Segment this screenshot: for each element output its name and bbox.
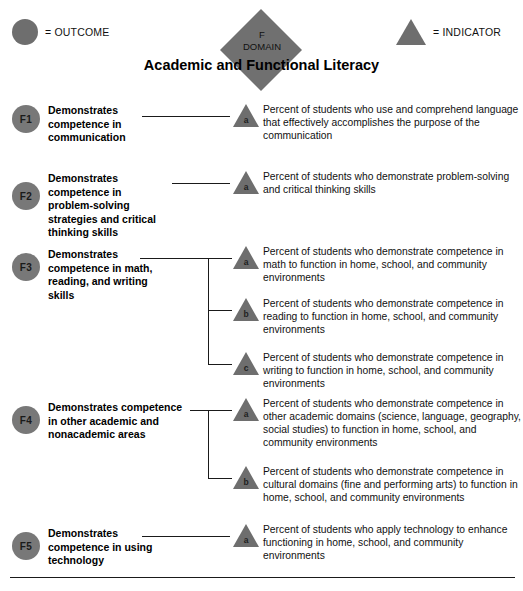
- indicator-text: Percent of students who use and comprehe…: [263, 103, 521, 142]
- connector-line-f1: [142, 116, 230, 117]
- connector-line-f3-stem: [140, 258, 209, 259]
- outcome-badge-f5: F5: [12, 532, 40, 560]
- indicator-letter: a: [233, 409, 259, 419]
- connector-line-f4-a: [208, 410, 232, 411]
- legend-indicator: = INDICATOR: [396, 19, 501, 45]
- indicator-text: Percent of students who demonstrate prob…: [263, 170, 521, 196]
- triangle-icon: c: [233, 352, 259, 375]
- indicator-text: Percent of students who demonstrate comp…: [263, 245, 521, 284]
- triangle-icon: b: [233, 298, 259, 321]
- triangle-icon: a: [233, 104, 259, 127]
- indicator-letter: a: [233, 535, 259, 545]
- outcome-badge-f2: F2: [12, 182, 40, 210]
- indicator-letter: a: [233, 257, 259, 267]
- indicator-text: Percent of students who demonstrate comp…: [263, 397, 521, 449]
- connector-line-f5: [142, 536, 230, 537]
- outcome-label-f4: Demonstrates competence in other academi…: [48, 401, 190, 442]
- connector-line-f2: [172, 183, 230, 184]
- connector-line-f3-b: [208, 310, 232, 311]
- outcome-label-f3: Demonstrates competence in math, reading…: [48, 248, 160, 302]
- indicator-letter: c: [233, 363, 259, 373]
- legend-outcome: = OUTCOME: [12, 19, 110, 45]
- triangle-icon: a: [233, 398, 259, 421]
- connector-line-f4-spine: [208, 410, 209, 478]
- triangle-icon: a: [233, 246, 259, 269]
- indicator-text: Percent of students who demonstrate comp…: [263, 297, 521, 336]
- circle-icon: [12, 19, 38, 45]
- indicator-text: Percent of students who apply technology…: [263, 523, 521, 562]
- connector-line-f3-c: [208, 364, 232, 365]
- indicator-letter: a: [233, 182, 259, 192]
- connector-line-f4-b: [208, 478, 232, 479]
- triangle-icon: a: [233, 171, 259, 194]
- domain-kind: DOMAIN: [221, 41, 303, 53]
- indicator-letter: b: [233, 477, 259, 487]
- domain-node: F DOMAIN: [221, 10, 303, 92]
- triangle-icon: a: [233, 524, 259, 547]
- indicator-letter: a: [233, 115, 259, 125]
- outcome-badge-f1: F1: [12, 105, 40, 133]
- outcome-label-f2: Demonstrates competence in problem-solvi…: [48, 172, 168, 240]
- footer-divider: [10, 577, 515, 578]
- indicator-text: Percent of students who demonstrate comp…: [263, 465, 521, 504]
- page-title: Academic and Functional Literacy: [0, 57, 523, 73]
- domain-code-kind: F DOMAIN: [221, 29, 303, 53]
- legend-outcome-label: = OUTCOME: [45, 26, 110, 38]
- connector-line-f3-a: [208, 258, 232, 259]
- triangle-icon: [396, 19, 426, 45]
- outcome-label-f1: Demonstrates competence in communication: [48, 104, 136, 145]
- connector-line-f4-stem: [190, 410, 209, 411]
- triangle-icon: b: [233, 466, 259, 489]
- diagram-canvas: = OUTCOME = INDICATOR F DOMAIN Academic …: [0, 0, 523, 591]
- connector-line-f3-spine: [208, 258, 209, 364]
- outcome-badge-f4: F4: [12, 406, 40, 434]
- domain-code: F: [221, 29, 303, 41]
- outcome-badge-f3: F3: [12, 253, 40, 281]
- legend-indicator-label: = INDICATOR: [433, 26, 501, 38]
- indicator-letter: b: [233, 309, 259, 319]
- indicator-text: Percent of students who demonstrate comp…: [263, 351, 521, 390]
- outcome-label-f5: Demonstrates competence in using technol…: [48, 527, 160, 568]
